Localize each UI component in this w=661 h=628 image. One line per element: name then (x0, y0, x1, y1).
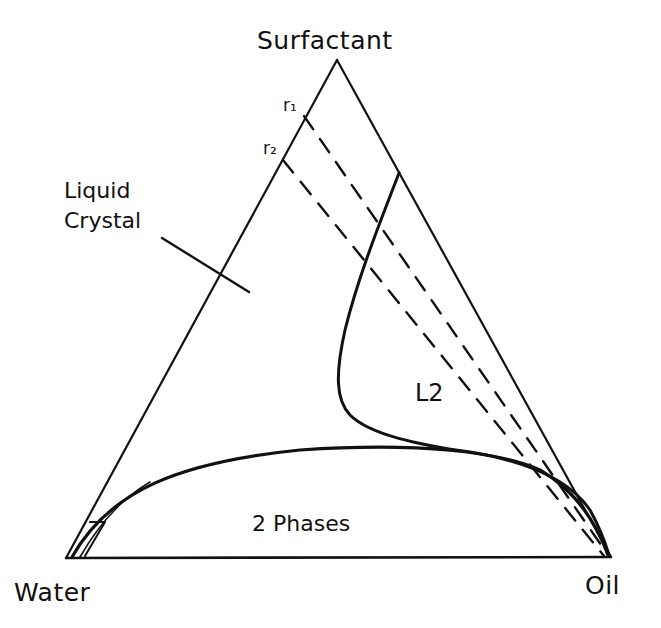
region-label-l2: L2 (415, 381, 444, 405)
triangle-base (66, 557, 611, 558)
region-label-liquid: Liquid (64, 176, 141, 206)
ray-label-r1: r₁ (283, 97, 297, 114)
vertex-label-water: Water (14, 580, 90, 605)
region-label-liquid-crystal: Liquid Crystal (64, 176, 141, 235)
dilution-ray-r2 (283, 160, 604, 556)
region-label-crystal: Crystal (64, 206, 141, 236)
ray-label-r2: r₂ (263, 140, 277, 157)
vertex-label-oil: Oil (585, 573, 620, 598)
triangle-right-edge (337, 60, 611, 557)
vertex-label-surfactant: Surfactant (257, 28, 393, 53)
two-phase-boundary (72, 447, 608, 557)
triangle-left-edge (66, 60, 337, 558)
dilution-ray-r1 (304, 116, 608, 555)
region-label-two-phases: 2 Phases (252, 513, 350, 535)
